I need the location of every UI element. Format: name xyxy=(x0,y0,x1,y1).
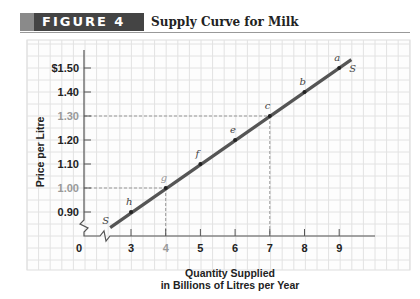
svg-text:4: 4 xyxy=(163,242,170,254)
svg-text:Price per Litre: Price per Litre xyxy=(34,117,46,188)
svg-text:0.90: 0.90 xyxy=(58,206,79,218)
point-label-c: c xyxy=(265,100,271,111)
svg-text:in Billions of Litres per Year: in Billions of Litres per Year xyxy=(161,279,300,291)
svg-text:3: 3 xyxy=(128,242,134,254)
svg-text:1.10: 1.10 xyxy=(58,158,79,170)
point-label-a: a xyxy=(334,52,340,63)
svg-text:1.00: 1.00 xyxy=(58,182,79,194)
svg-text:8: 8 xyxy=(301,242,307,254)
svg-text:Quantity Supplied: Quantity Supplied xyxy=(185,267,275,279)
svg-text:6: 6 xyxy=(232,242,238,254)
svg-text:1.20: 1.20 xyxy=(58,134,79,146)
svg-text:0: 0 xyxy=(76,242,82,254)
svg-text:1.40: 1.40 xyxy=(58,86,79,98)
svg-text:$1.50: $1.50 xyxy=(51,62,79,74)
svg-text:1.30: 1.30 xyxy=(58,110,79,122)
point-label-h: h xyxy=(126,196,132,207)
svg-text:9: 9 xyxy=(336,242,342,254)
point-label-b: b xyxy=(300,76,306,87)
svg-text:S: S xyxy=(349,63,356,74)
svg-text:S: S xyxy=(102,215,109,226)
svg-text:5: 5 xyxy=(197,242,203,254)
point-label-g: g xyxy=(161,172,167,183)
point-label-e: e xyxy=(230,124,236,135)
supply-chart: hgfecbaSS $1.501.401.301.201.101.000.900… xyxy=(0,0,420,299)
svg-text:7: 7 xyxy=(267,242,273,254)
